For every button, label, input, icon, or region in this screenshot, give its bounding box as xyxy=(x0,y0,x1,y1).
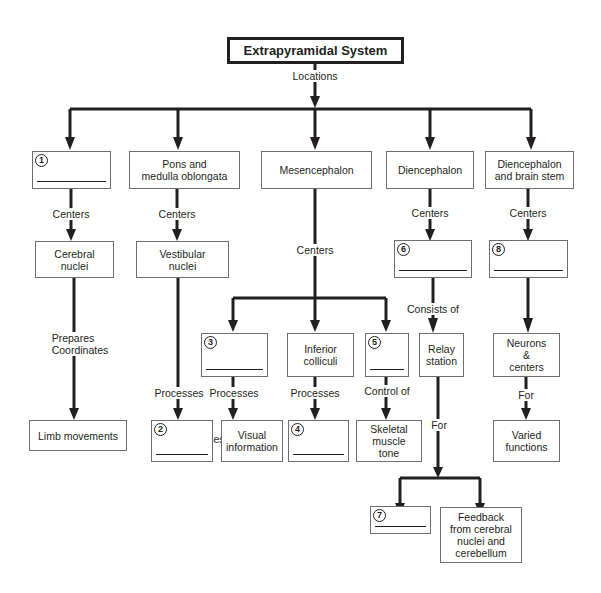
nc-line1: Neurons xyxy=(507,337,547,349)
fb-line1: Feedback xyxy=(458,511,504,523)
label-centers-2: Centers xyxy=(159,208,196,220)
vn-line1: Vestibular xyxy=(159,248,205,260)
answer-line xyxy=(206,369,263,370)
number-badge: 7 xyxy=(373,509,386,522)
label-prepares: Prepares xyxy=(52,332,95,344)
blank-box-2[interactable]: 2 xyxy=(151,420,213,462)
label-processes-vn: Processes xyxy=(154,387,203,399)
box-diencephalon: Diencephalon xyxy=(386,151,474,189)
answer-line xyxy=(156,454,208,455)
number-badge: 8 xyxy=(492,243,505,256)
dbs-line2: and brain stem xyxy=(495,170,564,182)
box-neurons-centers: Neurons&centers xyxy=(493,333,560,377)
box-mesencephalon: Mesencephalon xyxy=(261,151,372,189)
rs-line2: station xyxy=(426,355,457,367)
label-consists-of: Consists of xyxy=(407,303,459,315)
blank-box-6[interactable]: 6 xyxy=(394,240,472,278)
blank-box-4[interactable]: 4 xyxy=(288,420,349,462)
label-for-neurons: For xyxy=(518,389,534,401)
label-centers-3: Centers xyxy=(297,244,334,256)
box-visual-information: Visualinformation xyxy=(221,420,283,462)
label-for-relay: For xyxy=(431,419,447,431)
connector-arrows xyxy=(0,0,601,593)
label-coordinates: Coordinates xyxy=(52,344,109,356)
ic-line1: Inferior xyxy=(304,343,337,355)
answer-line xyxy=(375,526,426,527)
rs-line1: Relay xyxy=(428,343,455,355)
diencephalon-label: Diencephalon xyxy=(398,164,462,176)
cn-line1: Cerebral xyxy=(54,248,94,260)
blank-box-7[interactable]: 7 xyxy=(370,506,431,534)
box-relay-station: Relaystation xyxy=(419,333,464,377)
nc-line2: & xyxy=(523,349,530,361)
number-badge: 4 xyxy=(291,423,304,436)
box-pons-medulla: Pons andmedulla oblongata xyxy=(129,151,240,189)
vf-line1: Varied xyxy=(512,429,542,441)
ic-line2: colliculi xyxy=(304,355,338,367)
number-badge: 6 xyxy=(397,243,410,256)
blank-box-5[interactable]: 5 xyxy=(365,333,409,377)
label-centers-4: Centers xyxy=(412,207,449,219)
mesencephalon-label: Mesencephalon xyxy=(279,164,353,176)
pons-line1: Pons and xyxy=(162,158,206,170)
answer-line xyxy=(293,454,344,455)
vf-line2: functions xyxy=(505,441,547,453)
blank-box-1[interactable]: 1 xyxy=(32,151,111,189)
box-varied-functions: Variedfunctions xyxy=(493,420,560,462)
title-text: Extrapyramidal System xyxy=(244,45,388,57)
fb-line2: from cerebral xyxy=(450,523,512,535)
answer-line xyxy=(370,369,404,370)
vn-line2: nuclei xyxy=(169,260,196,272)
vi-line1: Visual xyxy=(238,429,266,441)
number-badge: 2 xyxy=(154,423,167,436)
box-vestibular-nuclei: Vestibularnuclei xyxy=(136,241,229,278)
answer-line xyxy=(399,270,467,271)
box-feedback: Feedbackfrom cerebralnuclei andcerebellu… xyxy=(440,507,522,563)
smt-line3: tone xyxy=(379,447,399,459)
number-badge: 3 xyxy=(204,336,217,349)
dbs-line1: Diencephalon xyxy=(497,158,561,170)
box-limb-movements: Limb movements xyxy=(29,420,127,451)
answer-line xyxy=(37,181,106,182)
label-processes-3: Processes xyxy=(209,387,258,399)
box-inferior-colliculi: Inferiorcolliculi xyxy=(287,333,354,377)
label-prepares-coordinates: PreparesCoordinates xyxy=(52,332,109,356)
blank-box-8[interactable]: 8 xyxy=(489,240,568,278)
answer-line xyxy=(494,270,563,271)
label-locations: Locations xyxy=(293,70,338,82)
pons-line2: medulla oblongata xyxy=(142,170,228,182)
limb-movements-text: Limb movements xyxy=(38,430,118,442)
title-box: Extrapyramidal System xyxy=(227,37,404,64)
vi-line2: information xyxy=(226,441,278,453)
fb-line3: nuclei and xyxy=(457,535,505,547)
box-skeletal-muscle-tone: Skeletalmuscletone xyxy=(356,420,422,462)
label-processes-ic: Processes xyxy=(290,387,339,399)
label-centers-1: Centers xyxy=(53,208,90,220)
box-diencephalon-brainstem: Diencephalonand brain stem xyxy=(485,151,574,189)
nc-line3: centers xyxy=(509,361,543,373)
blank-box-3[interactable]: 3 xyxy=(201,333,268,377)
number-badge: 1 xyxy=(35,154,48,167)
number-badge: 5 xyxy=(368,336,381,349)
cn-line2: nuclei xyxy=(61,260,88,272)
label-control-of: Control of xyxy=(364,385,410,397)
smt-line2: muscle xyxy=(372,435,405,447)
box-cerebral-nuclei: Cerebralnuclei xyxy=(35,241,114,278)
label-centers-5: Centers xyxy=(510,207,547,219)
fb-line4: cerebellum xyxy=(455,547,506,559)
smt-line1: Skeletal xyxy=(370,423,407,435)
